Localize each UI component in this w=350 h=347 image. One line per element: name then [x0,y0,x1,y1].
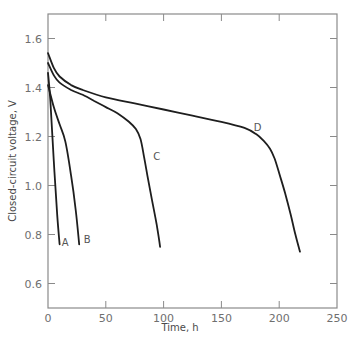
y-tick-label: 1.2 [25,131,43,144]
curve-labels: ABCD [62,122,262,248]
curve-label-b: B [84,234,91,245]
y-tick-label: 1.6 [25,33,43,46]
y-tick-label: 0.8 [25,229,43,242]
curve-b [48,85,79,244]
curve-label-c: C [153,151,160,162]
axis-ticks [48,14,337,308]
x-tick-label: 50 [99,312,113,325]
x-tick-label: 200 [269,312,290,325]
plot-frame [48,14,337,308]
y-axis-title: Closed-circuit voltage, V [7,100,18,222]
x-tick-label: 250 [327,312,348,325]
y-tick-label: 1.4 [25,82,43,95]
curve-c [48,63,160,247]
y-tick-label: 0.6 [25,278,43,291]
x-tick-label: 0 [45,312,52,325]
x-axis-title: Time, h [160,322,198,333]
curves [48,53,300,252]
curve-d [48,53,300,252]
discharge-chart: 0501001502002500.60.81.01.21.41.6 ABCD T… [0,0,350,347]
curve-label-d: D [254,122,262,133]
y-tick-label: 1.0 [25,180,43,193]
curve-label-a: A [62,237,69,248]
x-tick-label: 150 [211,312,232,325]
tick-labels: 0501001502002500.60.81.01.21.41.6 [25,33,348,326]
curve-a [48,73,60,245]
